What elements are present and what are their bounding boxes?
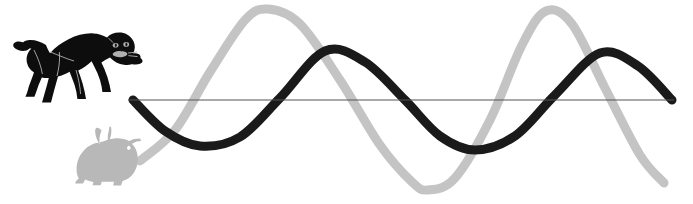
cat-pupil-right-icon [125, 43, 127, 47]
wave-illustration-figure [0, 0, 693, 204]
rabbit-silhouette [75, 126, 141, 185]
figure-canvas [0, 0, 693, 204]
cat-pupil-left-icon [115, 43, 117, 47]
cat-silhouette [13, 32, 142, 102]
cat-body-shape [23, 32, 141, 102]
